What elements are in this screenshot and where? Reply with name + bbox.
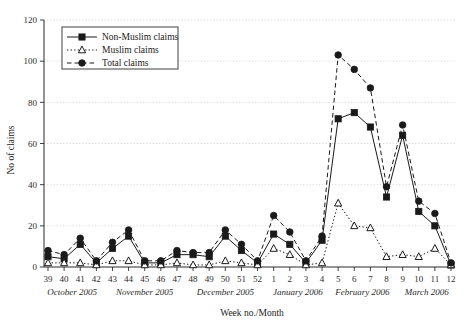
data-point-marker-triangle — [238, 259, 245, 266]
x-tick-label: 50 — [221, 274, 231, 284]
series-non-muslim-claims — [45, 110, 454, 269]
data-point-marker-circle — [190, 249, 197, 256]
x-tick-label: 47 — [172, 274, 182, 284]
x-tick-label: 49 — [205, 274, 215, 284]
data-point-marker-circle — [270, 212, 277, 219]
data-point-marker-square — [416, 208, 422, 214]
data-point-marker-circle — [432, 210, 439, 217]
data-point-marker-triangle — [125, 257, 132, 264]
data-point-marker-square — [367, 124, 373, 130]
data-point-marker-square — [77, 241, 83, 247]
data-point-marker-circle — [335, 52, 342, 59]
x-tick-label: 40 — [60, 274, 70, 284]
series-line — [48, 113, 451, 265]
x-tick-label: 44 — [124, 274, 134, 284]
month-label: October 2005 — [47, 287, 97, 297]
y-tick-label: 120 — [24, 15, 38, 25]
month-group-labels: October 2005November 2005December 2005Ja… — [47, 287, 449, 297]
data-point-marker-triangle — [270, 245, 277, 252]
data-point-marker-circle — [61, 251, 68, 258]
x-tick-label: 51 — [237, 274, 246, 284]
data-point-marker-circle — [238, 241, 245, 248]
data-point-marker-circle — [287, 229, 294, 236]
series-muslim-claims — [44, 199, 454, 267]
x-tick-label: 4 — [320, 274, 325, 284]
data-point-marker-circle — [254, 258, 261, 265]
data-point-marker-square — [335, 116, 341, 122]
legend-label: Muslim claims — [102, 45, 159, 55]
data-series-layer — [44, 52, 454, 268]
data-point-marker-square — [238, 247, 244, 253]
data-point-marker-circle — [319, 233, 326, 240]
data-point-marker-square — [271, 231, 277, 237]
data-point-marker-circle — [77, 235, 84, 242]
y-tick-label: 60 — [28, 139, 38, 149]
legend-label: Total claims — [102, 58, 149, 68]
x-tick-label: 48 — [189, 274, 199, 284]
data-point-marker-square — [383, 194, 389, 200]
x-tick-label: 10 — [414, 274, 424, 284]
data-point-marker-circle — [415, 198, 422, 205]
series-markers — [44, 199, 454, 267]
x-tick-label: 3 — [304, 274, 309, 284]
chart-figure: 020406080100120 394041424344454647484950… — [0, 0, 470, 323]
series-line — [48, 55, 451, 263]
data-point-marker-circle — [367, 85, 374, 92]
series-total-claims — [45, 52, 455, 266]
data-point-marker-triangle — [173, 259, 180, 266]
month-label: November 2005 — [115, 287, 174, 297]
data-point-marker-circle — [79, 60, 86, 67]
x-tick-label: 12 — [447, 274, 456, 284]
data-point-marker-square — [432, 223, 438, 229]
x-tick-label: 1 — [271, 274, 276, 284]
data-point-marker-circle — [222, 227, 229, 234]
series-markers — [45, 110, 454, 269]
data-point-marker-circle — [45, 247, 52, 254]
x-tick-label: 9 — [400, 274, 405, 284]
x-tick-label: 6 — [352, 274, 357, 284]
x-tick-label: 46 — [156, 274, 166, 284]
x-tick-label: 45 — [140, 274, 150, 284]
x-tick-label: 52 — [253, 274, 262, 284]
month-label: January 2006 — [273, 287, 323, 297]
data-point-marker-square — [79, 34, 85, 40]
data-point-marker-circle — [158, 258, 165, 265]
data-point-marker-circle — [399, 122, 406, 129]
data-point-marker-circle — [206, 249, 213, 256]
data-point-marker-triangle — [367, 224, 374, 231]
data-point-marker-circle — [303, 258, 310, 265]
data-point-marker-triangle — [189, 261, 196, 268]
month-label: March 2006 — [404, 287, 449, 297]
x-tick-label: 5 — [336, 274, 341, 284]
claims-line-chart: 020406080100120 394041424344454647484950… — [0, 0, 470, 323]
legend-label: Non-Muslim claims — [102, 32, 179, 42]
x-tick-label: 42 — [92, 274, 101, 284]
data-point-marker-triangle — [351, 222, 358, 229]
x-tick-label: 2 — [288, 274, 293, 284]
x-tick-label: 11 — [431, 274, 440, 284]
data-point-marker-circle — [125, 227, 132, 234]
data-point-marker-triangle — [206, 261, 213, 268]
data-point-marker-triangle — [431, 245, 438, 252]
y-tick-label: 0 — [33, 262, 38, 272]
series-markers — [45, 52, 455, 266]
x-axis-ticks: 3940414243444546474849505152123456789101… — [44, 267, 456, 284]
chart-legend: Non-Muslim claimsMuslim claimsTotal clai… — [62, 27, 179, 69]
data-point-marker-triangle — [335, 199, 342, 206]
x-tick-label: 7 — [368, 274, 373, 284]
y-tick-label: 40 — [28, 180, 38, 190]
data-point-marker-circle — [93, 258, 100, 265]
y-axis-title: No of claims — [6, 125, 16, 174]
x-axis-title: Week no./Month — [220, 308, 284, 318]
data-point-marker-triangle — [222, 257, 229, 264]
data-point-marker-circle — [448, 260, 455, 267]
data-point-marker-square — [287, 241, 293, 247]
y-tick-label: 20 — [28, 221, 38, 231]
month-label: February 2006 — [334, 287, 390, 297]
data-point-marker-circle — [109, 239, 116, 246]
data-point-marker-square — [351, 110, 357, 116]
data-point-marker-circle — [141, 258, 148, 265]
x-tick-label: 43 — [108, 274, 118, 284]
x-tick-label: 8 — [384, 274, 389, 284]
data-point-marker-circle — [351, 66, 358, 73]
